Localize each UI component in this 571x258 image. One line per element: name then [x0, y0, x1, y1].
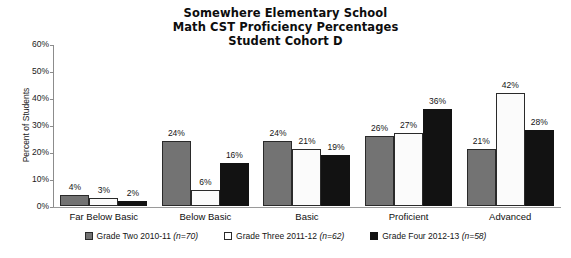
x-category-label: Below Basic [155, 211, 257, 222]
bar-value-label: 27% [400, 120, 417, 130]
bar-value-label: 28% [531, 117, 548, 127]
plot-area: 60%50%40%30%20%10%0% 4%3%2%24%6%16%24%21… [53, 45, 561, 207]
bar[interactable]: 21% [292, 149, 321, 206]
legend-label: Grade Three 2011-12 (n=62) [236, 231, 344, 241]
bar-value-label: 26% [371, 123, 388, 133]
legend-sample-size: (n=70) [173, 231, 198, 241]
legend-sample-size: (n=58) [462, 231, 487, 241]
bar-value-label: 16% [226, 150, 243, 160]
legend-swatch [85, 232, 93, 240]
bar-group: 24%21%19% [256, 44, 358, 206]
legend-item[interactable]: Grade Three 2011-12 (n=62) [224, 231, 344, 241]
y-tick-mark [50, 207, 53, 208]
y-tick-label: 10% [21, 174, 49, 184]
legend-item[interactable]: Grade Two 2010-11 (n=70) [85, 231, 199, 241]
bar[interactable]: 19% [321, 155, 350, 206]
y-tick-label: 20% [21, 147, 49, 157]
bar[interactable]: 24% [162, 141, 191, 206]
bar-group: 24%6%16% [155, 44, 257, 206]
legend-sample-size: (n=62) [319, 231, 344, 241]
bar-value-label: 36% [429, 96, 446, 106]
y-tick-label: 0% [21, 201, 49, 211]
bar-value-label: 6% [199, 177, 211, 187]
bar-value-label: 4% [69, 182, 81, 192]
chart-figure: Somewhere Elementary School Math CST Pro… [0, 0, 571, 258]
bar-value-label: 24% [168, 128, 185, 138]
bar[interactable]: 21% [467, 149, 496, 206]
legend-label: Grade Two 2010-11 (n=70) [97, 231, 199, 241]
bar[interactable]: 4% [60, 195, 89, 206]
chart-title: Somewhere Elementary School Math CST Pro… [0, 6, 571, 48]
bar[interactable]: 16% [220, 163, 249, 206]
bar-value-label: 2% [127, 188, 139, 198]
bar-value-label: 3% [98, 185, 110, 195]
bar[interactable]: 6% [191, 190, 220, 206]
x-category-label: Advanced [459, 211, 561, 222]
x-axis-line [53, 207, 561, 208]
bar[interactable]: 36% [423, 109, 452, 206]
y-tick-label: 60% [21, 39, 49, 49]
bar-value-label: 21% [473, 136, 490, 146]
bar[interactable]: 42% [496, 93, 525, 206]
y-tick-label: 50% [21, 66, 49, 76]
bar[interactable]: 2% [118, 201, 147, 206]
bar-group: 26%27%36% [358, 44, 460, 206]
bar[interactable]: 24% [263, 141, 292, 206]
chart-title-line-2: Math CST Proficiency Percentages [0, 20, 571, 34]
x-category-label: Far Below Basic [53, 211, 155, 222]
x-category-label: Basic [256, 211, 358, 222]
bar[interactable]: 28% [525, 130, 554, 206]
y-tick-label: 40% [21, 93, 49, 103]
bar[interactable]: 26% [365, 136, 394, 206]
bar-group: 21%42%28% [459, 44, 561, 206]
bar-value-label: 42% [502, 80, 519, 90]
bar-value-label: 24% [269, 128, 286, 138]
bar-value-label: 19% [327, 142, 344, 152]
bar-group: 4%3%2% [53, 44, 155, 206]
legend-swatch [370, 232, 378, 240]
legend-swatch [224, 232, 232, 240]
chart-legend: Grade Two 2010-11 (n=70)Grade Three 2011… [0, 231, 571, 241]
x-category-label: Proficient [358, 211, 460, 222]
bar-value-label: 21% [298, 136, 315, 146]
chart-title-line-1: Somewhere Elementary School [0, 6, 571, 20]
legend-label: Grade Four 2012-13 (n=58) [382, 231, 486, 241]
y-tick-label: 30% [21, 120, 49, 130]
legend-item[interactable]: Grade Four 2012-13 (n=58) [370, 231, 486, 241]
bar[interactable]: 27% [394, 133, 423, 206]
bar[interactable]: 3% [89, 198, 118, 206]
